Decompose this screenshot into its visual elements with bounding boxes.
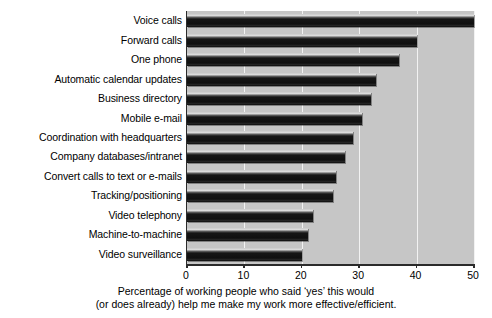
caption-line-2: (or does already) help me make my work m… [0,298,492,311]
x-tick-mark [416,264,418,268]
bar [187,53,399,66]
category-label: Machine-to-machine [0,229,182,240]
category-label: Forward calls [0,35,182,46]
x-tick-label: 10 [228,269,258,281]
bar [187,14,474,27]
category-label: Voice calls [0,15,182,26]
bar [187,150,345,163]
caption-line-1: Percentage of working people who said ‘y… [0,285,492,298]
bar [187,131,353,144]
category-label: One phone [0,54,182,65]
bar [187,209,313,222]
bar [187,112,362,125]
gridline-30 [359,11,360,264]
bar [187,92,371,105]
category-label: Company databases/intranet [0,151,182,162]
x-tick-mark [358,264,360,268]
x-tick-mark [243,264,245,268]
x-tick-mark [473,264,475,268]
plot-inner [187,11,474,264]
bar [187,228,308,241]
x-tick-label: 0 [171,269,201,281]
x-tick-label: 20 [286,269,316,281]
bar [187,73,376,86]
category-axis-labels: Voice callsForward callsOne phoneAutomat… [0,11,182,264]
bar [187,34,417,47]
chart-caption: Percentage of working people who said ‘y… [0,285,492,311]
category-label: Video surveillance [0,249,182,260]
x-axis-line [186,264,474,266]
category-label: Coordination with headquarters [0,132,182,143]
x-tick-mark [186,264,188,268]
bar-chart-figure: Voice callsForward callsOne phoneAutomat… [0,0,492,318]
x-tick-label: 30 [343,269,373,281]
category-label: Automatic calendar updates [0,74,182,85]
bar [187,248,302,261]
category-label: Business directory [0,93,182,104]
category-label: Tracking/positioning [0,190,182,201]
category-label: Convert calls to text or e-mails [0,171,182,182]
plot-area [186,11,474,264]
x-tick-label: 40 [401,269,431,281]
x-tick-mark [301,264,303,268]
x-tick-label: 50 [458,269,488,281]
category-label: Mobile e-mail [0,113,182,124]
gridline-50 [474,11,475,264]
bar [187,189,333,202]
bar [187,170,336,183]
gridline-40 [417,11,418,264]
category-label: Video telephony [0,210,182,221]
